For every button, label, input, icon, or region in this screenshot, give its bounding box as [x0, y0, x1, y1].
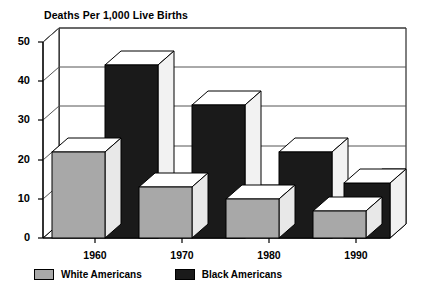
chart-legend: White Americans Black Americans [34, 266, 282, 282]
bar-white-1960[interactable] [52, 138, 121, 238]
legend-label-black-americans: Black Americans [202, 269, 282, 280]
x-tick-label-1990: 1990 [321, 249, 391, 261]
x-tick-label-1970: 1970 [147, 249, 217, 261]
bar-chart: Deaths Per 1,000 Live Births [0, 0, 424, 285]
x-tick-label-1980: 1980 [234, 249, 304, 261]
bar-white-1970[interactable] [139, 173, 208, 238]
chart-plot-area [0, 0, 424, 285]
legend-swatch-white-americans [34, 269, 54, 280]
y-tick-marks [38, 42, 43, 238]
legend-item-black-americans[interactable]: Black Americans [175, 269, 282, 280]
x-tick-marks [95, 238, 356, 243]
bar-white-1980[interactable] [226, 185, 295, 238]
legend-item-white-americans[interactable]: White Americans [34, 269, 142, 280]
legend-swatch-black-americans [175, 269, 195, 280]
y-tick-label-50: 50 [4, 36, 30, 47]
y-tick-label-0: 0 [4, 232, 30, 243]
y-tick-label-10: 10 [4, 193, 30, 204]
legend-label-white-americans: White Americans [61, 269, 142, 280]
bar-white-1990[interactable] [313, 197, 382, 238]
y-tick-label-20: 20 [4, 154, 30, 165]
y-tick-label-40: 40 [4, 75, 30, 86]
x-tick-label-1960: 1960 [60, 249, 130, 261]
y-tick-label-30: 30 [4, 114, 30, 125]
